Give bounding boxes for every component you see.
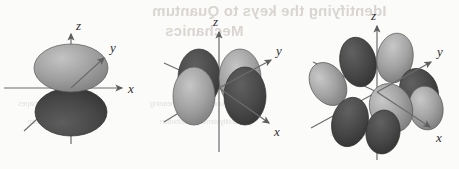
p-axis-label-x: x [127, 81, 134, 96]
d-lobe-front-left-light [173, 67, 215, 125]
orbital-figure-page: Identifying the keys to Quantum Mechanic… [0, 0, 459, 169]
panel-d-orbital: z y x [150, 0, 295, 169]
d-axis-label-y: y [274, 43, 282, 58]
panel-f-orbital: z y x [295, 0, 459, 169]
p-axis-label-z: z [75, 18, 81, 33]
f-axis-label-y: y [435, 44, 443, 59]
f-axis-label-x: x [435, 130, 442, 145]
p-lobe-lower-dark [35, 88, 107, 136]
f-axis-label-z: z [370, 8, 376, 23]
d-axis-label-z: z [212, 14, 218, 29]
p-axis-label-y: y [108, 40, 116, 55]
panel-p-orbital: z x y [0, 0, 150, 169]
d-axis-label-x: x [273, 124, 280, 139]
p-lobe-upper-light [34, 44, 108, 92]
